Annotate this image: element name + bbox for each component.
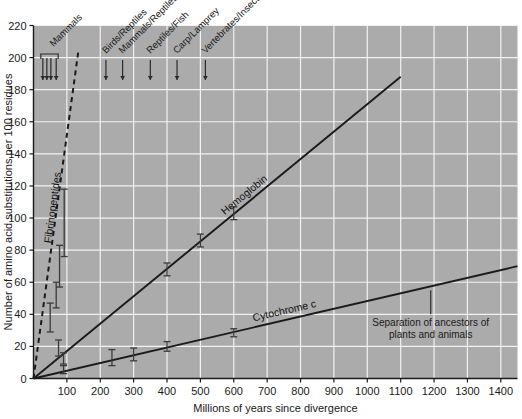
- x-tick-label-100: 100: [58, 385, 76, 397]
- x-tick-label-1200: 1200: [422, 385, 446, 397]
- x-tick-label-700: 700: [258, 385, 276, 397]
- x-tick-label-600: 600: [225, 385, 243, 397]
- x-tick-label-500: 500: [191, 385, 209, 397]
- chart-figure: 1002003004005006007008009001000110012001…: [0, 0, 522, 419]
- separation-note-line2: plants and animals: [389, 329, 472, 340]
- x-tick-label-1000: 1000: [355, 385, 379, 397]
- evolution-rate-chart: 1002003004005006007008009001000110012001…: [0, 0, 522, 419]
- y-tick-label-220: 220: [8, 20, 26, 32]
- x-tick-label-1400: 1400: [489, 385, 513, 397]
- x-tick-label-400: 400: [158, 385, 176, 397]
- y-tick-label-200: 200: [8, 52, 26, 64]
- y-tick-label-20: 20: [14, 340, 26, 352]
- separation-note-line1: Separation of ancestors of: [372, 317, 489, 328]
- x-tick-label-200: 200: [91, 385, 109, 397]
- x-tick-label-300: 300: [124, 385, 142, 397]
- y-axis-title: Number of amino acid substitutions per 1…: [2, 73, 14, 330]
- x-tick-label-1300: 1300: [455, 385, 479, 397]
- x-tick-label-900: 900: [325, 385, 343, 397]
- y-tick-label-80: 80: [14, 244, 26, 256]
- x-axis-title: Millions of years since divergence: [193, 402, 357, 414]
- y-tick-label-40: 40: [14, 308, 26, 320]
- x-tick-label-800: 800: [291, 385, 309, 397]
- y-tick-label-0: 0: [20, 373, 26, 385]
- x-tick-label-1100: 1100: [389, 385, 413, 397]
- y-tick-label-60: 60: [14, 276, 26, 288]
